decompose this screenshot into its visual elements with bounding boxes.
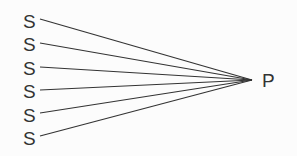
connector-line <box>40 43 252 80</box>
source-label: S <box>23 35 36 54</box>
connector-line <box>40 19 252 80</box>
source-label: S <box>23 59 36 78</box>
source-label: S <box>23 12 36 31</box>
source-label: S <box>23 129 36 148</box>
connector-lines <box>0 0 297 156</box>
source-label: S <box>23 106 36 125</box>
connector-line <box>40 67 252 80</box>
source-label: S <box>23 82 36 101</box>
target-label: P <box>262 71 275 90</box>
